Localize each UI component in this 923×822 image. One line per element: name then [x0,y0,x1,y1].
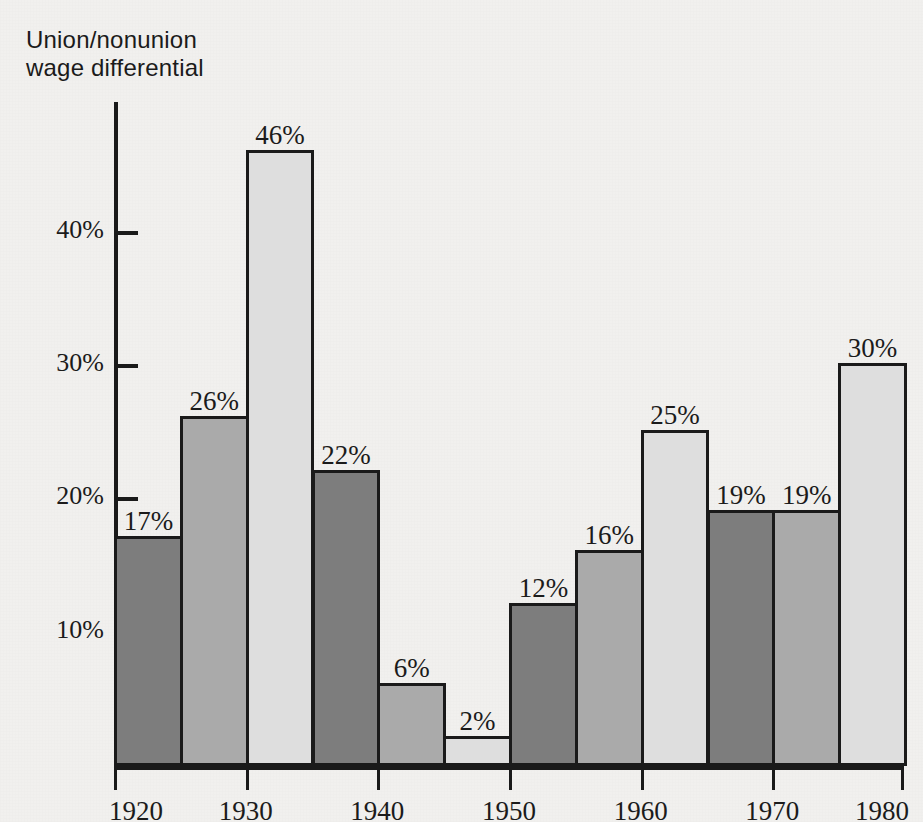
x-axis-tick-label: 1960 [614,796,668,822]
bar: 26% [180,416,249,766]
bar: 16% [575,550,644,766]
y-axis-tick-label: 40% [56,215,104,245]
bar: 6% [377,683,446,766]
bar-value-label: 25% [650,400,700,431]
plot-area: 10%20%30%40% 192019301940195019601970198… [114,102,904,770]
bar: 2% [443,736,512,766]
y-axis-tick-label: 20% [56,481,104,511]
bar: 25% [641,430,710,766]
bar-value-label: 46% [255,120,305,151]
x-axis-tick [772,770,775,790]
bar-value-label: 30% [848,333,898,364]
bar-value-label: 6% [394,653,430,684]
bar-value-label: 19% [716,480,766,511]
y-axis-tick: 20% [118,497,138,501]
bar: 19% [707,510,776,766]
y-axis-title: Union/nonunion wage differential [26,26,204,82]
x-axis-tick [246,770,249,790]
x-axis-tick [509,770,512,790]
y-axis-tick-label: 10% [56,615,104,645]
bar: 30% [838,363,907,766]
bar-value-label: 2% [460,706,496,737]
y-axis-tick: 40% [118,231,138,235]
bar-value-label: 17% [124,506,174,537]
bar: 17% [114,536,183,766]
bar-value-label: 22% [321,440,371,471]
bar: 19% [772,510,841,766]
y-axis-tick-label: 30% [56,348,104,378]
x-axis-tick-label: 1970 [745,796,799,822]
x-axis-tick-label: 1950 [482,796,536,822]
bar: 12% [509,603,578,766]
x-axis-tick [901,770,904,790]
x-axis-tick-label: 1940 [350,796,404,822]
x-axis-tick-label: 1920 [109,796,163,822]
bar-chart-figure: Union/nonunion wage differential 10%20%3… [0,0,923,822]
bar: 46% [246,150,315,766]
bar-value-label: 19% [782,480,832,511]
x-axis-tick [377,770,380,790]
bar-value-label: 26% [189,386,239,417]
x-axis-tick [641,770,644,790]
bar: 22% [312,470,381,766]
bar-value-label: 12% [519,573,569,604]
y-axis-tick: 30% [118,364,138,368]
x-axis-tick [114,770,117,790]
bar-value-label: 16% [584,520,634,551]
x-axis-tick-label: 1930 [219,796,273,822]
x-axis-tick-label: 1980 [855,796,909,822]
